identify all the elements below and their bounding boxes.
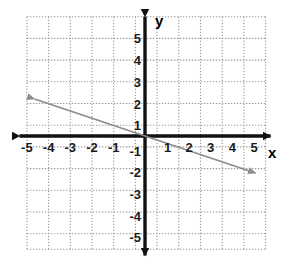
y-tick-label-4: 4 <box>134 54 141 67</box>
y-tick-label-neg1: -1 <box>129 144 141 157</box>
x-tick-label-1: 1 <box>164 141 171 154</box>
x-tick-label-neg5: -5 <box>21 141 33 154</box>
x-tick-label-3: 3 <box>207 141 214 154</box>
y-tick-label-neg5: -5 <box>129 231 141 244</box>
y-tick-label-2: 2 <box>134 97 141 110</box>
coordinate-plane-figure: -5 -4 -3 -2 -1 1 2 3 4 5 5 4 3 2 1 -1 -2… <box>0 0 290 270</box>
x-tick-label-2: 2 <box>185 141 192 154</box>
x-tick-label-4: 4 <box>229 141 236 154</box>
x-tick-label-neg2: -2 <box>86 141 98 154</box>
y-tick-label-1: 1 <box>134 119 141 132</box>
y-tick-label-neg2: -2 <box>129 166 141 179</box>
x-tick-label-neg4: -4 <box>43 141 55 154</box>
x-axis-label: x <box>268 145 276 160</box>
y-tick-label-5: 5 <box>134 32 141 45</box>
y-tick-label-3: 3 <box>134 75 141 88</box>
x-tick-label-neg3: -3 <box>65 141 77 154</box>
plot-canvas <box>0 0 290 270</box>
x-tick-label-neg1: -1 <box>108 141 120 154</box>
y-tick-label-neg3: -3 <box>129 187 141 200</box>
y-axis-label: y <box>155 13 163 28</box>
y-tick-label-neg4: -4 <box>129 209 141 222</box>
x-tick-label-5: 5 <box>250 141 257 154</box>
